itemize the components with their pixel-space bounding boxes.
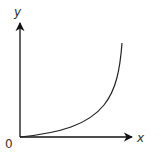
origin-label: 0 [5,137,13,151]
x-axis-label: x [136,131,145,145]
y-axis-label: y [13,5,22,19]
function-graph: y x 0 [0,0,161,157]
exponential-curve [20,43,122,137]
